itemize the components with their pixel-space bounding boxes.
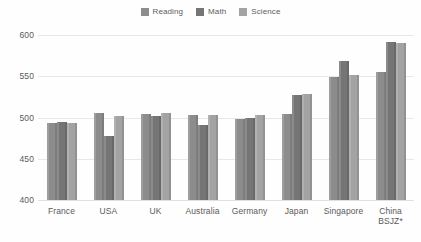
legend-label-science: Science: [251, 8, 280, 16]
y-tick-label-550: 550: [4, 71, 34, 81]
bar-science[interactable]: [349, 75, 359, 200]
x-tick-label: Japan: [273, 203, 320, 241]
bar-math[interactable]: [151, 116, 161, 200]
y-axis: 400450500550600: [0, 35, 34, 200]
legend-label-reading: Reading: [153, 8, 184, 16]
bar-math[interactable]: [104, 136, 114, 200]
x-tick-label: France: [38, 203, 85, 241]
bar-fill: [349, 75, 359, 200]
bar-group: [179, 35, 226, 200]
bar-group: [85, 35, 132, 200]
legend-swatch-math: [196, 8, 204, 16]
bar-math[interactable]: [245, 118, 255, 201]
y-tick-label-500: 500: [4, 113, 34, 123]
bar-fill: [292, 95, 302, 200]
bar-math[interactable]: [57, 122, 67, 200]
bar-fill: [57, 122, 67, 200]
bar-fill: [198, 125, 208, 200]
bar-fill: [151, 116, 161, 200]
bar-math[interactable]: [339, 61, 349, 200]
bar-fill: [245, 118, 255, 201]
bar-fill: [376, 72, 386, 200]
bar-group: [38, 35, 85, 200]
bar-fill: [67, 123, 77, 200]
bar-science[interactable]: [208, 115, 218, 200]
bar-reading[interactable]: [94, 113, 104, 200]
bar-reading[interactable]: [188, 115, 198, 200]
bar-math[interactable]: [386, 42, 396, 200]
legend-item-science[interactable]: Science: [239, 8, 280, 16]
chart-legend: Reading Math Science: [0, 4, 421, 20]
bar-reading[interactable]: [47, 123, 57, 200]
bar-groups: [38, 35, 414, 200]
y-tick-label-400: 400: [4, 195, 34, 205]
bar-science[interactable]: [396, 43, 406, 200]
bar-reading[interactable]: [235, 119, 245, 200]
bar-science[interactable]: [161, 113, 171, 200]
bar-fill: [282, 114, 292, 200]
bar-fill: [339, 61, 349, 200]
bar-math[interactable]: [292, 95, 302, 200]
bar-science[interactable]: [67, 123, 77, 200]
bar-fill: [47, 123, 57, 200]
bar-chart: Reading Math Science 400450500550600 Fra…: [0, 0, 421, 242]
x-tick-label: Singapore: [320, 203, 367, 241]
bar-science[interactable]: [114, 116, 124, 200]
bar-fill: [188, 115, 198, 200]
bar-fill: [386, 42, 396, 200]
y-tick-label-600: 600: [4, 30, 34, 40]
bar-science[interactable]: [255, 115, 265, 200]
legend-swatch-reading: [141, 8, 149, 16]
bar-fill: [104, 136, 114, 200]
bar-fill: [302, 94, 312, 200]
x-tick-label: UK: [132, 203, 179, 241]
gridline-400: [38, 200, 414, 201]
legend-label-math: Math: [208, 8, 226, 16]
bar-group: [226, 35, 273, 200]
y-tick-label-450: 450: [4, 154, 34, 164]
bar-fill: [94, 113, 104, 200]
x-tick-label: Germany: [226, 203, 273, 241]
bar-reading[interactable]: [329, 77, 339, 200]
bar-fill: [161, 113, 171, 200]
x-tick-label: Australia: [179, 203, 226, 241]
legend-swatch-science: [239, 8, 247, 16]
bar-fill: [114, 116, 124, 200]
bar-science[interactable]: [302, 94, 312, 200]
bar-fill: [235, 119, 245, 200]
bar-reading[interactable]: [282, 114, 292, 200]
legend-item-math[interactable]: Math: [196, 8, 226, 16]
bar-fill: [255, 115, 265, 200]
bar-reading[interactable]: [376, 72, 386, 200]
bar-group: [367, 35, 414, 200]
bar-fill: [208, 115, 218, 200]
bar-fill: [396, 43, 406, 200]
bar-math[interactable]: [198, 125, 208, 200]
bar-reading[interactable]: [141, 114, 151, 200]
bar-group: [320, 35, 367, 200]
bar-group: [273, 35, 320, 200]
bar-fill: [329, 77, 339, 200]
legend-item-reading[interactable]: Reading: [141, 8, 184, 16]
x-tick-label: USA: [85, 203, 132, 241]
x-axis: FranceUSAUKAustraliaGermanyJapanSingapor…: [38, 203, 414, 241]
bar-group: [132, 35, 179, 200]
bar-fill: [141, 114, 151, 200]
x-tick-label: China BSJZ*: [367, 203, 414, 241]
